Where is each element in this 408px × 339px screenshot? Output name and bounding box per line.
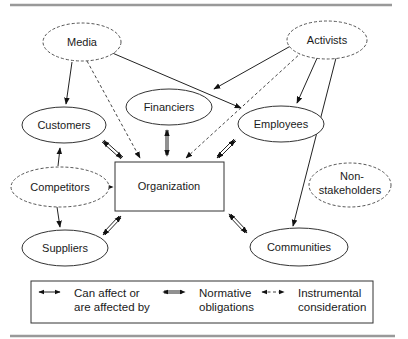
node-nonstakeholders: Non- stakeholders — [309, 163, 391, 207]
node-financiers: Financiers — [126, 89, 212, 125]
node-customers: Customers — [22, 107, 106, 143]
node-label: Financiers — [144, 101, 195, 113]
legend: Can affect or are affected by Normative … — [31, 281, 373, 323]
edge-competitors-suppliers — [57, 207, 60, 227]
node-label: Suppliers — [42, 242, 88, 254]
node-employees: Employees — [238, 106, 324, 142]
node-label: Communities — [267, 241, 332, 253]
edge-media-customers — [66, 62, 72, 104]
node-activists: Activists — [287, 21, 367, 59]
node-suppliers: Suppliers — [22, 230, 108, 266]
legend-label-line1: Instrumental — [298, 287, 361, 299]
node-media: Media — [43, 23, 121, 61]
node-organization: Organization — [115, 162, 224, 211]
legend-label-line2: consideration — [298, 301, 366, 313]
node-label: Customers — [37, 119, 91, 131]
node-label: Activists — [307, 34, 348, 46]
node-label-line2: stakeholders — [319, 184, 382, 196]
edge-activists-employees — [297, 56, 318, 103]
node-label-line1: Non- — [340, 170, 364, 182]
legend-label-line2: are affected by — [74, 301, 150, 313]
node-label: Organization — [138, 180, 200, 192]
edge-suppliers-organization — [103, 216, 121, 235]
legend-label-line1: Normative — [199, 287, 251, 299]
edge-activists-customers — [214, 43, 296, 89]
legend-label-line1: Can affect or — [74, 287, 140, 299]
edge-employees-organization — [217, 139, 236, 158]
node-communities: Communities — [250, 228, 348, 266]
node-label: Employees — [254, 118, 309, 130]
node-label: Media — [67, 36, 98, 48]
node-label: Competitors — [30, 181, 90, 193]
legend-label-line2: obligations — [199, 301, 254, 313]
node-competitors: Competitors — [11, 167, 109, 207]
edge-communities-organization — [229, 214, 247, 233]
edge-financiers-organization — [166, 130, 168, 156]
edge-customers-organization — [102, 140, 123, 159]
edge-competitors-customers — [58, 148, 60, 166]
stakeholder-diagram: Media Activists Financiers Customers Emp… — [0, 0, 408, 339]
